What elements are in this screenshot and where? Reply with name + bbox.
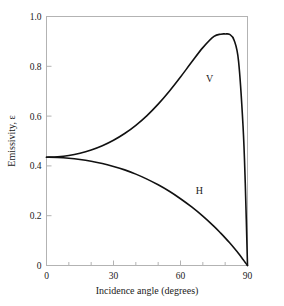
curve-label-h: H	[196, 185, 203, 196]
emissivity-chart: 0306090 00.20.40.60.81.0 VH Incidence an…	[0, 0, 284, 306]
y-tick-label: 0.2	[30, 211, 42, 221]
chart-background	[0, 0, 284, 306]
x-tick-label: 0	[44, 271, 49, 281]
figure-container: 0306090 00.20.40.60.81.0 VH Incidence an…	[0, 0, 284, 306]
y-axis-title: Emissivity, ε	[6, 115, 17, 166]
y-tick-label: 0.8	[30, 62, 42, 72]
y-tick-label: 0	[37, 261, 42, 271]
curve-label-v: V	[206, 73, 214, 84]
y-tick-label: 0.4	[30, 161, 42, 171]
x-tick-label: 30	[109, 271, 119, 281]
y-tick-label: 0.6	[30, 112, 42, 122]
x-tick-label: 90	[243, 271, 253, 281]
x-axis-title: Incidence angle (degrees)	[96, 285, 199, 297]
x-tick-label: 60	[176, 271, 186, 281]
y-tick-label: 1.0	[30, 12, 42, 22]
